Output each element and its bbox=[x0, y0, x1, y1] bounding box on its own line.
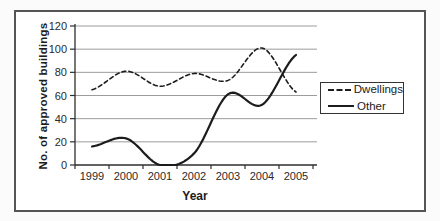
series-line-dwellings bbox=[92, 48, 296, 92]
y-tick-label: 40 bbox=[55, 113, 67, 125]
figure: 0204060801001201999200020012002200320042… bbox=[0, 0, 440, 221]
legend-item-other: Other bbox=[328, 101, 403, 113]
x-tick-label: 2002 bbox=[182, 170, 206, 182]
x-tick-label: 1999 bbox=[80, 170, 104, 182]
legend-item-dwellings: Dwellings bbox=[328, 84, 403, 96]
y-tick-label: 0 bbox=[61, 159, 67, 171]
dashed-line-sample bbox=[328, 89, 351, 91]
x-axis-title: Year bbox=[75, 189, 315, 203]
y-tick-label: 60 bbox=[55, 90, 67, 102]
chart-frame: 0204060801001201999200020012002200320042… bbox=[14, 10, 426, 212]
y-axis-title: No. of approved buildings bbox=[37, 22, 49, 169]
legend: Dwellings Other bbox=[320, 82, 404, 114]
legend-label-other: Other bbox=[357, 101, 386, 113]
x-tick-label: 2005 bbox=[284, 170, 308, 182]
x-tick-label: 2001 bbox=[148, 170, 172, 182]
solid-line-sample bbox=[328, 105, 354, 107]
x-tick-label: 2003 bbox=[216, 170, 240, 182]
legend-label-dwellings: Dwellings bbox=[354, 84, 403, 96]
x-tick-label: 2004 bbox=[250, 170, 274, 182]
y-axis-title-wrap: No. of approved buildings bbox=[34, 26, 52, 165]
y-tick-label: 80 bbox=[55, 66, 67, 78]
y-tick-label: 20 bbox=[55, 136, 67, 148]
x-tick-label: 2000 bbox=[114, 170, 138, 182]
